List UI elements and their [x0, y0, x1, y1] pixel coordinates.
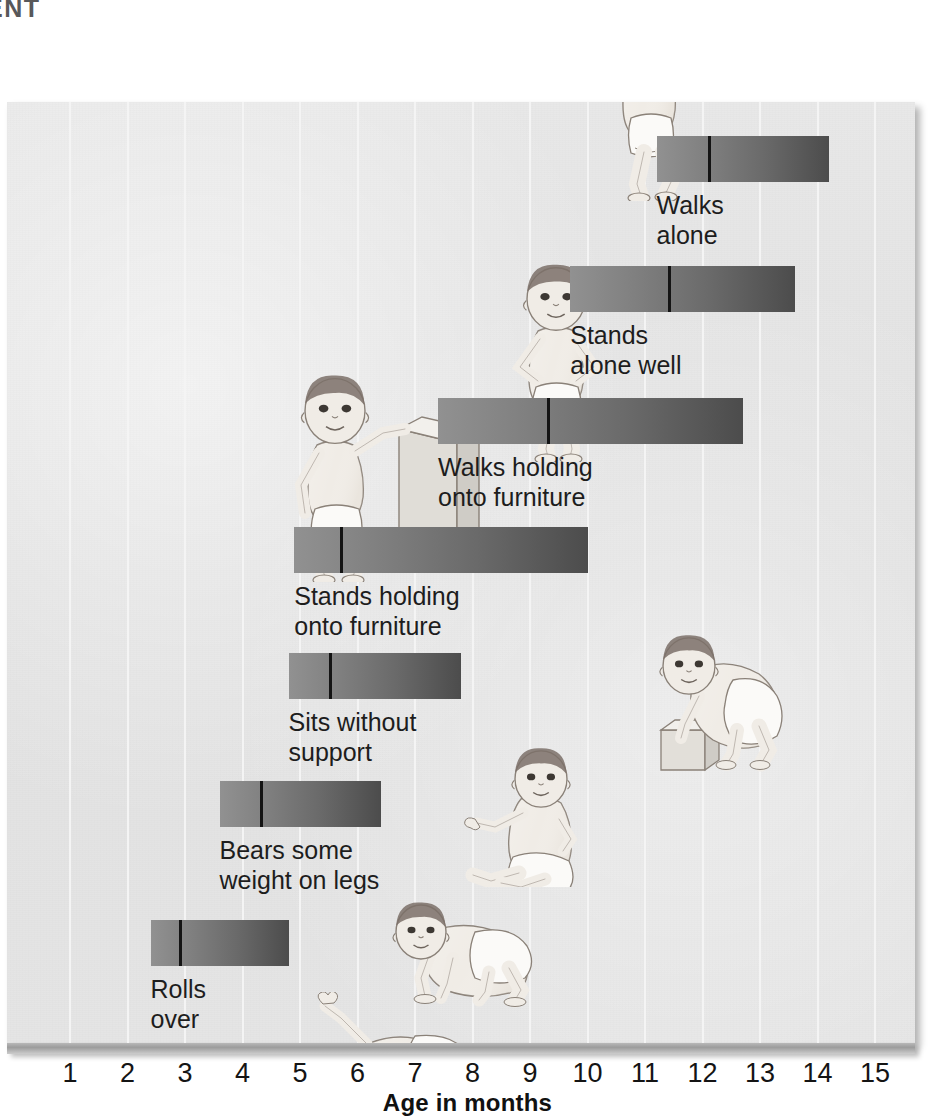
- milestone-median-marker: [708, 136, 711, 182]
- milestone-label: Sits without support: [289, 707, 417, 767]
- page-heading: ENT: [0, 0, 41, 23]
- x-tick-label-8: 8: [453, 1058, 493, 1089]
- milestone-range-bar: [151, 920, 289, 966]
- x-tick-label-11: 11: [625, 1058, 665, 1089]
- x-tick-label-6: 6: [338, 1058, 378, 1089]
- milestone-label: Stands holding onto furniture: [294, 581, 459, 641]
- x-tick-label-12: 12: [683, 1058, 723, 1089]
- milestone-range-bar: [438, 398, 743, 444]
- infant-pulling-up-on-block-illustration: [637, 622, 812, 772]
- x-axis-title: Age in months: [0, 1089, 935, 1117]
- gridline-month-4: [242, 102, 244, 1043]
- milestone-label: Bears some weight on legs: [220, 835, 380, 895]
- x-tick-label-15: 15: [855, 1058, 895, 1089]
- gridline-month-13: [759, 102, 761, 1043]
- milestone-range-bar: [289, 653, 462, 699]
- x-tick-label-2: 2: [108, 1058, 148, 1089]
- x-tick-label-4: 4: [223, 1058, 263, 1089]
- x-tick-label-7: 7: [395, 1058, 435, 1089]
- x-axis-line: [7, 1043, 915, 1054]
- gridline-month-15: [874, 102, 876, 1043]
- milestone-median-marker: [340, 527, 343, 573]
- milestone-median-marker: [179, 920, 182, 966]
- gridline-month-2: [127, 102, 129, 1043]
- milestone-median-marker: [668, 266, 671, 312]
- infant-crawling-illustration: [379, 892, 549, 1012]
- x-tick-label-14: 14: [798, 1058, 838, 1089]
- gridline-month-3: [184, 102, 186, 1043]
- gridline-month-11: [644, 102, 646, 1043]
- milestone-label: Walks holding onto furniture: [438, 452, 593, 512]
- x-tick-label-5: 5: [280, 1058, 320, 1089]
- gridline-month-14: [817, 102, 819, 1043]
- milestone-range-bar: [220, 781, 381, 827]
- infant-sitting-illustration: [459, 747, 604, 887]
- gridline-month-1: [69, 102, 71, 1043]
- x-tick-label-3: 3: [165, 1058, 205, 1089]
- milestone-range-bar: [294, 527, 587, 573]
- milestone-label: Rolls over: [151, 974, 207, 1034]
- x-tick-label-10: 10: [568, 1058, 608, 1089]
- x-tick-label-9: 9: [510, 1058, 550, 1089]
- chart-plot-area: Walks aloneStands alone wellWalks holdin…: [7, 102, 915, 1043]
- x-tick-label-1: 1: [50, 1058, 90, 1089]
- milestone-label: Stands alone well: [570, 320, 681, 380]
- milestone-label: Walks alone: [657, 190, 724, 250]
- infant-rolling-over-illustration: [297, 992, 487, 1043]
- milestone-median-marker: [329, 653, 332, 699]
- milestone-median-marker: [547, 398, 550, 444]
- milestone-range-bar: [570, 266, 794, 312]
- x-tick-label-13: 13: [740, 1058, 780, 1089]
- milestone-range-bar: [657, 136, 830, 182]
- milestone-median-marker: [260, 781, 263, 827]
